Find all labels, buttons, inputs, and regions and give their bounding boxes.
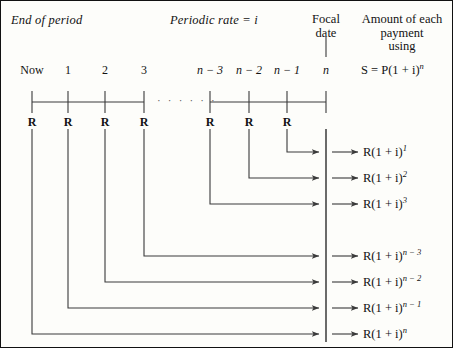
formula-exponent: n [420,61,424,71]
result-equation-7: R(1 + i)n [363,327,407,342]
result-base: R(1 + i) [363,301,403,315]
payment-label-3: R [134,115,154,130]
result-base: R(1 + i) [363,145,403,159]
period-label-text: n − 1 [274,63,300,77]
payment-label-n-minus-1: R [277,115,297,130]
result-equation-6: R(1 + i)n − 1 [363,301,421,316]
accumulation-path-1 [287,129,319,152]
period-label-n-minus-1: n − 1 [265,63,309,78]
header-amount-of-each-payment: Amount of each payment using [353,13,451,54]
result-equation-2: R(1 + i)2 [363,171,407,186]
result-exponent: n − 3 [403,247,422,257]
accumulation-path-6 [68,129,319,308]
period-label-text: 2 [102,63,108,77]
result-base: R(1 + i) [363,275,403,289]
period-label-text: n − 2 [236,63,262,77]
accumulation-path-7 [32,129,319,334]
result-base: R(1 + i) [363,249,403,263]
accumulation-path-5 [105,129,319,282]
period-label-2: 2 [83,63,127,78]
payment-label-2: R [95,115,115,130]
result-exponent: 1 [403,143,407,153]
payment-label-now: R [22,115,42,130]
period-label-n: n [304,63,348,78]
result-exponent: n [403,325,407,335]
accumulation-path-3 [210,129,319,204]
period-label-n-minus-3: n − 3 [188,63,232,78]
period-label-text: n [323,63,329,77]
result-base: R(1 + i) [363,171,403,185]
result-equation-5: R(1 + i)n − 2 [363,275,421,290]
result-equation-3: R(1 + i)3 [363,197,407,212]
period-label-3: 3 [122,63,166,78]
payment-label-n-minus-2: R [239,115,259,130]
result-base: R(1 + i) [363,327,403,341]
header-focal-date: Focal date [301,13,351,40]
accumulation-path-2 [249,129,319,178]
result-exponent: 2 [403,169,407,179]
period-label-text: 3 [141,63,147,77]
header-end-of-period: End of period [11,13,82,28]
formula-future-value: S = P(1 + i)n [361,63,424,78]
header-periodic-rate: Periodic rate = i [170,13,258,28]
result-exponent: 3 [403,195,407,205]
payment-label-1: R [58,115,78,130]
result-equation-1: R(1 + i)1 [363,145,407,160]
amount-header-line2: payment [353,27,451,41]
accumulation-path-4 [144,129,319,256]
period-label-text: n − 3 [197,63,223,77]
result-exponent: n − 1 [403,299,422,309]
result-base: R(1 + i) [363,197,403,211]
formula-base: S = P(1 + i) [361,63,420,77]
period-label-text: 1 [65,63,71,77]
payment-label-n-minus-3: R [200,115,220,130]
header-focal-date-line2: date [301,27,351,41]
timeline-ellipsis: · · · · · · [157,94,217,106]
annuity-timeline-figure: End of period Periodic rate = i Focal da… [0,0,453,348]
result-exponent: n − 2 [403,273,422,283]
header-focal-date-line1: Focal [301,13,351,27]
result-equation-4: R(1 + i)n − 3 [363,249,421,264]
amount-header-line3: using [353,40,451,54]
amount-header-line1: Amount of each [353,13,451,27]
period-label-text: Now [20,63,43,77]
